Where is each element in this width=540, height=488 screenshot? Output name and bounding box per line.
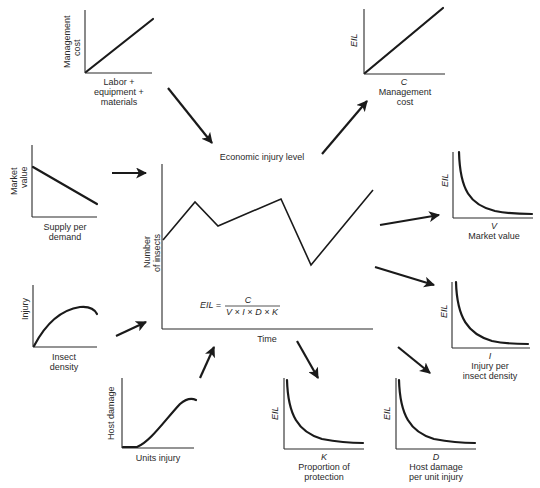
population-line (163, 190, 373, 265)
plot-eil-vs-injury-per-insect: EIL I Injury per insect density (439, 282, 530, 381)
y-label-2: value (19, 166, 29, 188)
inverse-curve (399, 380, 475, 443)
x-label-2: per unit injury (409, 472, 464, 482)
arrow-main-to-d-plot (398, 347, 430, 373)
x-label: Management (379, 87, 432, 97)
y-label: Number (142, 236, 152, 268)
y-label: Market (9, 167, 19, 195)
x-label-2: protection (304, 472, 344, 482)
formula-lhs: EIL = (200, 300, 221, 310)
x-label: Supply per (43, 222, 86, 232)
eil-diagram: Management cost Labor + equipment + mate… (0, 0, 540, 488)
arrow-injury-to-main (116, 322, 146, 336)
arrow-eil-to-c-plot (322, 101, 367, 154)
x-label: Host damage (409, 462, 463, 472)
main-chart-number-of-insects: Economic injury level Number of insects … (142, 152, 373, 344)
plot-host-damage: Host damage Units injury (106, 378, 196, 463)
x-label: Units injury (136, 453, 181, 463)
arrow-main-to-i-plot (375, 267, 434, 285)
y-label: EIL (270, 406, 280, 420)
x-label-2: equipment + (94, 87, 144, 97)
x-label-2: insect density (463, 371, 518, 381)
x-label: Time (257, 334, 277, 344)
linear-decreasing-curve (33, 167, 97, 204)
y-label: EIL (349, 33, 359, 47)
x-label: Injury per (471, 361, 509, 371)
saturating-curve (34, 307, 97, 346)
x-symbol: D (433, 452, 440, 462)
sigmoid-curve (123, 399, 196, 447)
y-label: EIL (439, 304, 449, 318)
plot-injury: Injury Insect density (20, 285, 97, 372)
y-label-2: cost (72, 39, 82, 56)
x-label-3: materials (101, 97, 138, 107)
plot-market-value: Market value Supply per demand (9, 145, 97, 242)
formula-denominator: V × I × D × K (226, 307, 279, 317)
inverse-curve (459, 152, 532, 214)
arrow-main-to-v-plot (380, 215, 439, 225)
formula-numerator: C (245, 295, 252, 305)
arrow-host-damage-to-main (200, 347, 214, 378)
y-label: Injury (20, 297, 30, 320)
main-title: Economic injury level (220, 152, 305, 162)
x-symbol: V (491, 221, 498, 231)
plot-eil-vs-management-cost: EIL C Management cost (349, 8, 445, 107)
plot-management-cost: Management cost Labor + equipment + mate… (62, 10, 153, 107)
eil-formula: EIL = C V × I × D × K (200, 295, 280, 317)
x-label-2: cost (397, 97, 414, 107)
x-label: Market value (468, 231, 520, 241)
plot-eil-vs-protection: EIL K Proportion of protection (270, 378, 364, 482)
y-label: EIL (382, 406, 392, 420)
x-label: Insect (52, 352, 77, 362)
y-label-2: of insects (152, 233, 162, 272)
inverse-curve (287, 380, 363, 443)
y-label: Management (62, 15, 72, 68)
y-label: EIL (440, 173, 450, 187)
y-label: Host damage (106, 386, 116, 440)
plot-eil-vs-host-damage: EIL D Host damage per unit injury (382, 378, 476, 482)
linear-increasing-curve (86, 19, 153, 72)
x-label: Labor + (104, 77, 135, 87)
x-label-2: demand (49, 232, 82, 242)
linear-increasing-curve (365, 8, 443, 73)
x-symbol: I (489, 351, 492, 361)
inverse-curve (456, 282, 528, 344)
x-symbol: C (401, 77, 408, 87)
x-label: Proportion of (298, 462, 350, 472)
x-label-2: density (50, 362, 79, 372)
x-symbol: K (321, 452, 328, 462)
arrow-main-to-k-plot (297, 341, 318, 378)
arrow-cost-to-eil (168, 88, 212, 143)
plot-eil-vs-market-value: EIL V Market value (440, 152, 533, 241)
